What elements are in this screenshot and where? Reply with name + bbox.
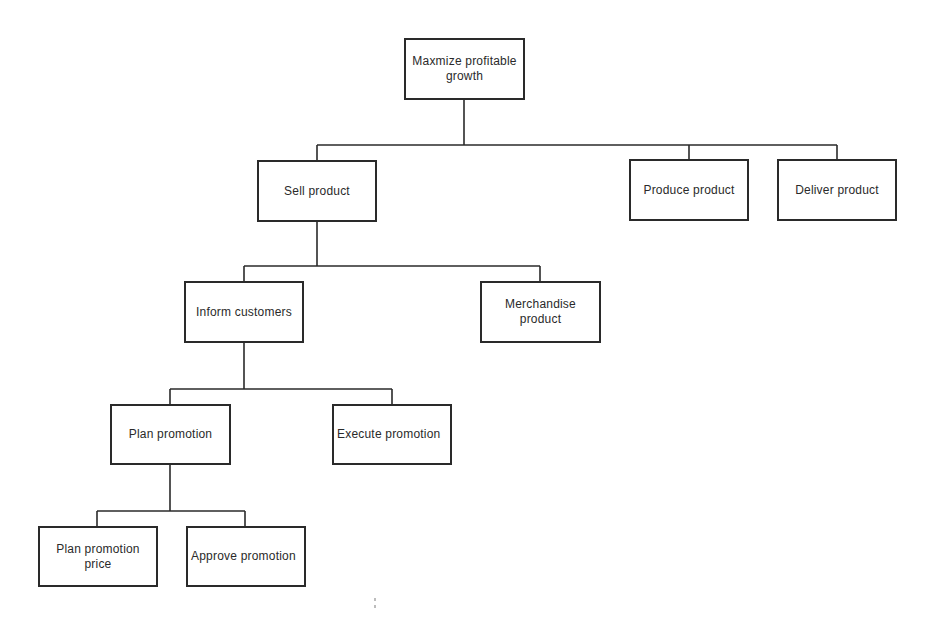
- node-label: Deliver product: [795, 183, 879, 198]
- node-plan-promotion-price: Plan promotion price: [38, 526, 158, 587]
- node-sell-product: Sell product: [257, 160, 377, 222]
- node-produce-product: Produce product: [629, 159, 749, 221]
- node-label: Maxmize profitable growth: [408, 54, 521, 84]
- node-deliver-product: Deliver product: [777, 159, 897, 221]
- node-plan-promotion: Plan promotion: [110, 404, 231, 465]
- node-label: Merchandise product: [484, 297, 597, 327]
- node-inform-customers: Inform customers: [184, 281, 304, 343]
- node-label: Execute promotion: [337, 427, 440, 442]
- hierarchy-diagram: Maxmize profitable growth Sell product P…: [0, 0, 927, 622]
- node-label: Inform customers: [196, 305, 292, 320]
- node-label: Produce product: [643, 183, 734, 198]
- scan-artifact: [374, 598, 376, 601]
- node-label: Plan promotion: [129, 427, 213, 442]
- node-label: Plan promotion price: [42, 542, 154, 572]
- node-execute-promotion: Execute promotion: [332, 404, 452, 465]
- node-maximize-profitable-growth: Maxmize profitable growth: [404, 38, 525, 100]
- node-merchandise-product: Merchandise product: [480, 281, 601, 343]
- node-approve-promotion: Approve promotion: [186, 526, 306, 587]
- node-label: Sell product: [284, 184, 350, 199]
- node-label: Approve promotion: [191, 549, 296, 564]
- scan-artifact: [374, 605, 376, 608]
